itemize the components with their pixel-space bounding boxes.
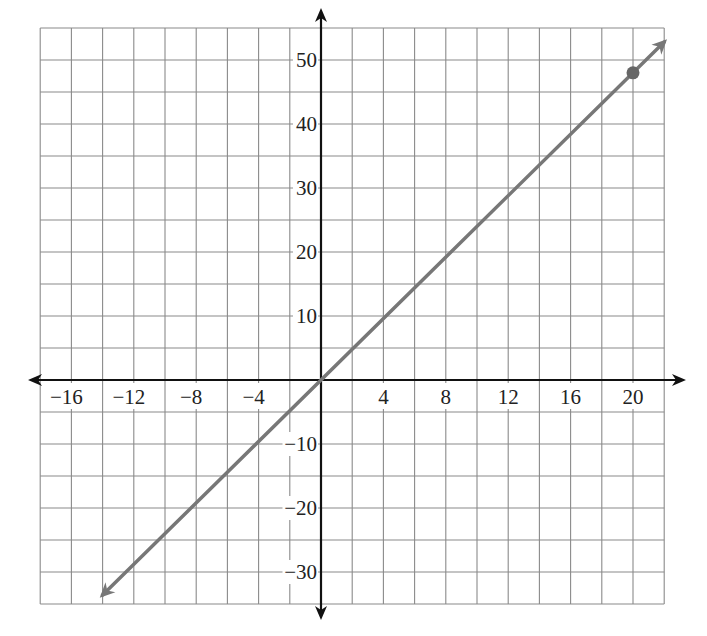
x-tick-label: 8	[441, 385, 452, 409]
x-tick-label: 4	[378, 385, 389, 409]
y-tick-label: −10	[284, 432, 317, 456]
plotted-points	[627, 66, 640, 79]
y-tick-label: 40	[296, 112, 317, 136]
data-point	[627, 66, 640, 79]
x-tick-label: 12	[498, 385, 519, 409]
y-tick-label: 30	[296, 176, 317, 200]
y-tick-label: −30	[284, 560, 317, 584]
y-tick-label: 20	[296, 240, 317, 264]
x-tick-label: −4	[242, 385, 265, 409]
x-tick-label: 16	[560, 385, 581, 409]
x-tick-label: 20	[623, 385, 644, 409]
y-tick-label: 10	[296, 304, 317, 328]
x-tick-label: −12	[112, 385, 145, 409]
x-tick-label: −8	[180, 385, 202, 409]
axes	[28, 8, 686, 620]
x-tick-label: −16	[50, 385, 83, 409]
y-tick-label: −20	[284, 496, 317, 520]
grid	[40, 28, 664, 604]
x-tick-labels: −16−12−8−448121620	[49, 383, 646, 409]
coordinate-plane: −16−12−8−448121620 5040302010−10−20−30	[0, 0, 707, 636]
y-tick-label: 50	[296, 48, 317, 72]
